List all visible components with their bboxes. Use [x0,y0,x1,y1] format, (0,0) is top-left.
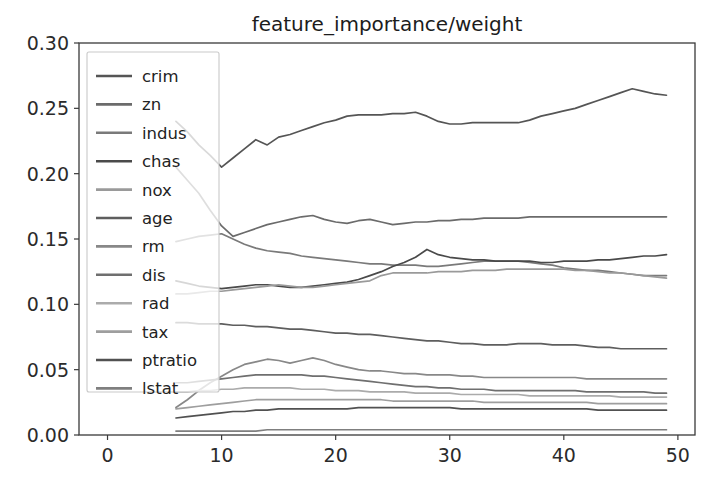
y-tick-label: 0.00 [27,424,69,446]
x-tick-label: 40 [552,444,576,466]
y-tick-label: 0.30 [27,32,69,54]
x-tick-label: 0 [101,444,113,466]
legend-label-age: age [142,209,173,228]
legend-label-rm: rm [142,237,165,256]
y-tick-label: 0.15 [27,228,69,250]
legend-label-tax: tax [142,323,169,342]
legend-label-indus: indus [142,124,187,143]
x-tick-label: 20 [324,444,348,466]
legend-label-crim: crim [142,67,179,86]
x-tick-label: 50 [666,444,690,466]
x-tick-label: 10 [209,444,233,466]
x-tick-label: 30 [438,444,462,466]
chart-legend: crimzninduschasnoxagermdisradtaxptratiol… [87,52,219,398]
legend-label-nox: nox [142,181,172,200]
y-tick-label: 0.20 [27,163,69,185]
legend-label-lstat: lstat [142,379,179,398]
page-title: feature_importance/weight [252,12,523,36]
feature-importance-line-chart: feature_importance/weight 0.000.050.100.… [0,0,718,494]
legend-label-zn: zn [142,95,161,114]
chart-figure: feature_importance/weight 0.000.050.100.… [0,0,718,494]
legend-label-rad: rad [142,294,169,313]
legend-label-ptratio: ptratio [142,351,197,370]
y-tick-label: 0.25 [27,97,69,119]
legend-label-chas: chas [142,152,180,171]
y-tick-label: 0.05 [27,359,69,381]
y-tick-label: 0.10 [27,293,69,315]
legend-label-dis: dis [142,266,166,285]
